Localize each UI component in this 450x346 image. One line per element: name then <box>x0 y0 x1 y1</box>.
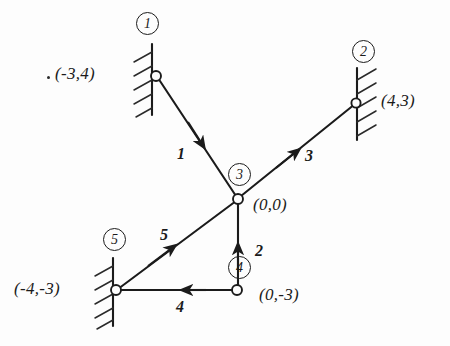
member-label-1: 1 <box>177 146 185 162</box>
figure-canvas: 1 2 3 4 5 (-3,4) (4,3) (0,0) (0,-3) (-4,… <box>0 0 450 346</box>
member-label-4: 4 <box>176 299 184 315</box>
joint-pin-1 <box>151 71 161 81</box>
member-3 <box>241 104 355 196</box>
joint-pin-3 <box>233 194 243 204</box>
joint-number-1: 1 <box>136 12 159 35</box>
coordinate-label-joint-2: (4,3) <box>381 92 415 109</box>
member-label-3: 3 <box>305 148 313 164</box>
member-1 <box>158 78 236 196</box>
truss-diagram-svg <box>0 0 450 346</box>
joint-pin-2 <box>351 98 360 107</box>
member-5 <box>118 201 236 289</box>
joint-number-4: 4 <box>228 256 251 279</box>
coordinate-label-joint-5: (-4,-3) <box>14 280 60 297</box>
support-joint-1 <box>134 44 152 117</box>
joint-number-2: 2 <box>352 40 375 63</box>
coordinate-label-joint-3: (0,0) <box>253 196 287 213</box>
support-joint-5 <box>95 258 113 329</box>
coordinate-label-joint-1: (-3,4) <box>55 65 95 82</box>
member-label-5: 5 <box>160 227 168 243</box>
joint-pin-4 <box>232 285 242 295</box>
coordinate-dot-mark <box>47 76 50 79</box>
member-label-2: 2 <box>255 243 263 259</box>
coordinate-label-joint-4: (0,-3) <box>259 286 299 303</box>
joint-pin-5 <box>111 285 121 295</box>
joint-number-3: 3 <box>228 163 251 186</box>
joint-number-5: 5 <box>103 228 126 251</box>
